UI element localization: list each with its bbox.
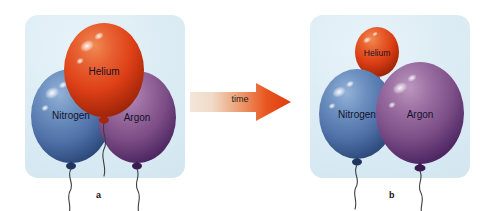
time-arrow-label: time (218, 95, 262, 104)
time-arrow: time (190, 83, 291, 121)
panel-b-caption: b (389, 191, 395, 200)
panel-a-caption: a (96, 191, 101, 200)
effusion-figure: Nitrogen (0, 0, 492, 211)
panel-a: Nitrogen (25, 15, 185, 178)
panel-b: Helium (310, 15, 470, 178)
balloon-argon-b: Argon (375, 60, 469, 186)
balloon-helium-a: Helium (63, 21, 147, 141)
